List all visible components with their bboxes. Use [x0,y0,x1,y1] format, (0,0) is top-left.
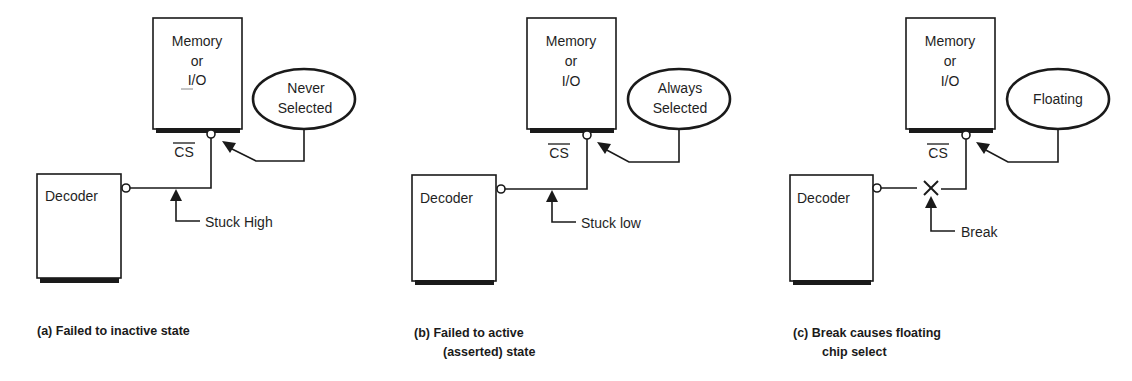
cs-pin-label: CS [927,144,949,161]
fault-label: Break [961,224,999,240]
svg-text:CS: CS [549,145,568,161]
or-label: or [565,53,578,69]
chip-select-wire [505,139,587,189]
cs-inversion-bubble [207,130,215,138]
caption-b-line1: (b) Failed to active [414,326,524,340]
memory-label: Memory [925,33,976,49]
decoder-output-bubble [122,184,130,192]
svg-text:Selected: Selected [653,100,707,116]
caption-a: (a) Failed to inactive state [37,324,190,338]
caption-c-line1: (c) Break causes floating [793,326,941,340]
decoder-output-bubble [873,184,881,192]
or-label: or [191,53,204,69]
decoder-block: Decoder [790,175,873,285]
cs-inversion-bubble [962,131,970,139]
io-label: I/O [188,72,207,88]
chip-select-wire [130,138,211,188]
panel-b: Memory or I/O CS Decoder Always Selected [412,18,730,359]
callout-never-selected: Never Selected [253,69,355,129]
memory-label: Memory [546,33,597,49]
svg-text:Selected: Selected [278,100,332,116]
memory-label: Memory [172,33,223,49]
decoder-label: Decoder [45,188,98,204]
io-label: I/O [562,73,581,89]
decoder-block: Decoder [37,174,121,283]
callout-floating: Floating [1007,69,1109,129]
decoder-label: Decoder [420,190,473,206]
fault-pointer-arrow [925,196,955,231]
svg-text:Always: Always [658,80,702,96]
callout-pointer-arrow [222,129,304,161]
svg-text:CS: CS [174,144,193,160]
chip-select-fault-diagram: Memory or I/O CS Decoder Never Selected [0,0,1132,381]
fault-label: Stuck low [581,215,642,231]
fault-pointer-arrow [546,190,576,222]
io-label: I/O [941,73,960,89]
decoder-block: Decoder [412,175,496,285]
cs-inversion-bubble [583,131,591,139]
decoder-label: Decoder [797,190,850,206]
caption-b-line2: (asserted) state [443,345,535,359]
caption-c-line2: chip select [822,345,887,359]
decoder-output-bubble [497,185,505,193]
fault-pointer-arrow [170,189,200,221]
fault-label: Stuck High [205,214,273,230]
panel-a: Memory or I/O CS Decoder Never Selected [37,18,355,338]
svg-text:CS: CS [928,145,947,161]
callout-always-selected: Always Selected [628,69,730,129]
svg-text:Floating: Floating [1033,91,1083,107]
memory-io-block: Memory or I/O [153,18,242,133]
svg-text:Never: Never [287,80,325,96]
memory-io-block: Memory or I/O [527,18,616,133]
panel-c: Memory or I/O CS Decoder Floating [790,18,1109,359]
or-label: or [944,53,957,69]
cs-pin-label: CS [173,143,195,160]
cs-pin-label: CS [548,144,570,161]
callout-pointer-arrow [976,129,1058,162]
memory-io-block: Memory or I/O [906,18,995,133]
callout-pointer-arrow [597,129,679,162]
break-x-icon [924,181,938,195]
